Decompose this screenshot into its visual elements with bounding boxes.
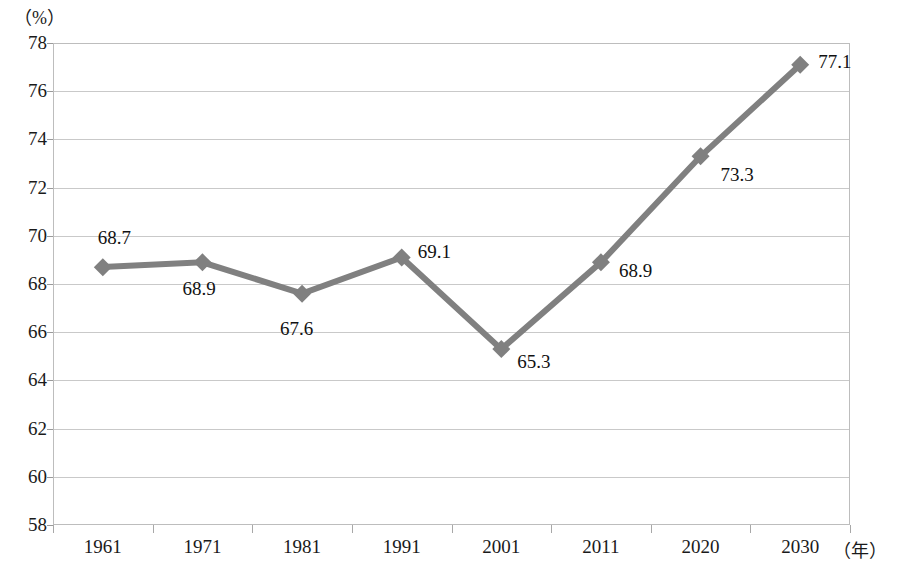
- x-axis-tick-mark: [551, 525, 552, 533]
- gridline: [54, 139, 849, 140]
- x-axis-tick-mark: [850, 525, 851, 533]
- x-axis-unit-label: （年）: [833, 536, 887, 562]
- x-axis-tick-label: 2030: [781, 536, 819, 558]
- x-axis-tick-label: 1961: [84, 536, 122, 558]
- x-axis-tick-mark: [53, 525, 54, 533]
- gridline: [54, 43, 849, 44]
- plot-area: [53, 43, 850, 525]
- data-point-value-label: 65.3: [517, 352, 550, 371]
- x-axis-tick-mark: [750, 525, 751, 533]
- x-axis-tick-mark: [651, 525, 652, 533]
- x-axis-tick-label: 1971: [183, 536, 221, 558]
- data-point-value-label: 69.1: [418, 242, 451, 261]
- x-axis-tick-mark: [252, 525, 253, 533]
- x-axis-tick-mark: [452, 525, 453, 533]
- x-axis-tick-label: 1981: [283, 536, 321, 558]
- gridline: [54, 188, 849, 189]
- x-axis-tick-label: 2001: [482, 536, 520, 558]
- gridline: [54, 236, 849, 237]
- data-point-value-label: 73.3: [721, 165, 754, 184]
- gridline: [54, 91, 849, 92]
- gridline: [54, 284, 849, 285]
- y-axis-tick-marks: [0, 43, 53, 525]
- line-chart: （%） 7876747270686664626058 1961197119811…: [0, 0, 897, 566]
- gridline: [54, 429, 849, 430]
- data-point-value-label: 67.6: [280, 319, 313, 338]
- x-axis-tick-label: 2020: [682, 536, 720, 558]
- gridline: [54, 332, 849, 333]
- x-axis-tick-mark: [153, 525, 154, 533]
- x-axis-tick-label: 2011: [582, 536, 619, 558]
- y-axis-unit-label: （%）: [14, 3, 65, 29]
- x-axis-tick-mark: [352, 525, 353, 533]
- x-axis-tick-marks: [53, 525, 850, 535]
- data-point-value-label: 68.9: [619, 261, 652, 280]
- x-axis-tick-labels: 19611971198119912001201120202030: [53, 536, 850, 564]
- gridline: [54, 380, 849, 381]
- gridline: [54, 477, 849, 478]
- data-point-value-label: 68.7: [98, 228, 131, 247]
- x-axis-tick-label: 1991: [383, 536, 421, 558]
- data-point-value-label: 68.9: [182, 279, 215, 298]
- data-point-value-label: 77.1: [818, 52, 851, 71]
